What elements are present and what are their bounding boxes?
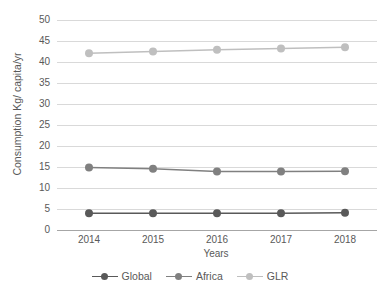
data-point-marker <box>85 163 93 171</box>
y-axis-tick-label: 35 <box>10 78 50 88</box>
data-point-marker <box>277 209 285 217</box>
legend-label: Africa <box>196 270 223 282</box>
data-point-marker <box>341 43 349 51</box>
legend-marker-icon <box>92 271 118 281</box>
data-point-marker <box>149 48 157 56</box>
gridline <box>57 230 377 231</box>
y-axis-tick-label: 15 <box>10 162 50 172</box>
legend-label: Global <box>122 270 152 282</box>
legend-item-glr[interactable]: GLR <box>237 270 289 282</box>
legend-marker-icon <box>166 271 192 281</box>
series-global <box>85 209 349 217</box>
data-point-marker <box>149 165 157 173</box>
y-axis-tick-label: 5 <box>10 204 50 214</box>
data-point-marker <box>85 49 93 57</box>
y-axis-tick-label: 20 <box>10 141 50 151</box>
data-point-marker <box>213 46 221 54</box>
legend-item-global[interactable]: Global <box>92 270 152 282</box>
data-point-marker <box>341 209 349 217</box>
data-point-marker <box>277 45 285 53</box>
y-axis-tick-label: 25 <box>10 120 50 130</box>
legend-marker-icon <box>237 271 263 281</box>
y-axis-tick-label: 30 <box>10 99 50 109</box>
legend-item-africa[interactable]: Africa <box>166 270 223 282</box>
y-axis-tick-label: 50 <box>10 15 50 25</box>
data-point-marker <box>277 168 285 176</box>
y-axis-tick-label: 0 <box>10 225 50 235</box>
legend-label: GLR <box>267 270 289 282</box>
data-point-marker <box>213 209 221 217</box>
series-layer <box>57 20 377 230</box>
y-axis-tick-label: 40 <box>10 57 50 67</box>
x-axis-tick-label: 2015 <box>121 234 185 245</box>
series-glr <box>85 43 349 57</box>
line-chart: Consumption Kg/ capita/yr 05101520253035… <box>0 0 380 302</box>
y-axis-tick-label: 10 <box>10 183 50 193</box>
data-point-marker <box>341 167 349 175</box>
x-axis-tick-label: 2018 <box>313 234 377 245</box>
chart-legend: GlobalAfricaGLR <box>0 270 380 282</box>
x-axis-title: Years <box>55 248 377 259</box>
x-axis-tick-label: 2014 <box>57 234 121 245</box>
series-africa <box>85 163 349 175</box>
x-axis-tick-label: 2016 <box>185 234 249 245</box>
x-axis-tick-label: 2017 <box>249 234 313 245</box>
data-point-marker <box>213 168 221 176</box>
plot-area: 05101520253035404550 2014201520162017201… <box>57 20 377 230</box>
y-axis-tick-label: 45 <box>10 36 50 46</box>
data-point-marker <box>149 209 157 217</box>
data-point-marker <box>85 209 93 217</box>
